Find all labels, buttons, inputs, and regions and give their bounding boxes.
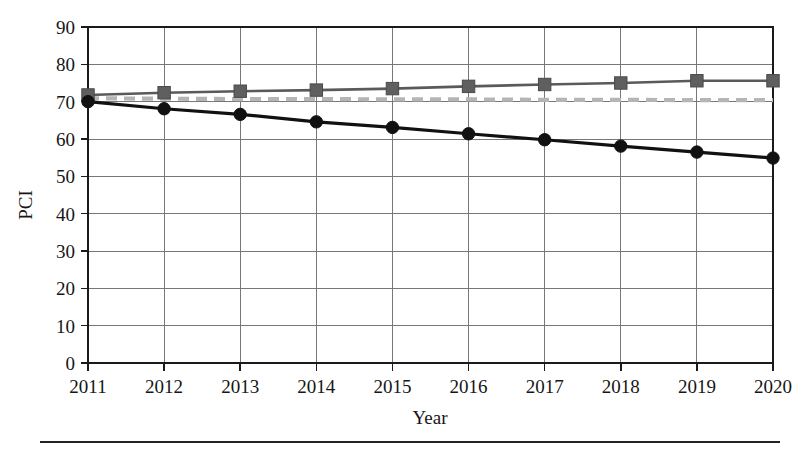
y-tick-label: 10 [56, 316, 75, 337]
x-tick-label: 2020 [754, 376, 792, 397]
data-point-marker [310, 84, 322, 96]
x-tick-label: 2018 [602, 376, 640, 397]
data-point-marker [310, 116, 322, 128]
y-tick-label: 0 [66, 353, 76, 374]
data-point-marker [386, 82, 398, 94]
x-tick-label: 2019 [678, 376, 716, 397]
data-point-marker [691, 146, 703, 158]
y-tick-label: 80 [56, 54, 75, 75]
data-point-marker [615, 77, 627, 89]
data-point-marker [462, 128, 474, 140]
y-tick-label: 90 [56, 17, 75, 38]
data-point-marker [767, 75, 779, 87]
data-point-marker [538, 78, 550, 90]
chart-figure: 0102030405060708090 20112012201320142015… [0, 0, 812, 454]
plot-area-frame [88, 27, 773, 363]
data-point-marker [691, 75, 703, 87]
x-axis-tick-labels: 2011201220132014201520162017201820192020 [69, 376, 792, 397]
x-tick-label: 2012 [145, 376, 183, 397]
series-flat-dashed-threshold-series [88, 98, 773, 100]
y-tick-label: 40 [56, 204, 75, 225]
data-series-layer [82, 75, 779, 165]
data-point-marker [158, 87, 170, 99]
x-tick-label: 2015 [373, 376, 411, 397]
series-line-declining-black-circle-series [88, 102, 773, 158]
data-point-marker [538, 134, 550, 146]
data-point-marker [82, 95, 94, 107]
y-tick-label: 70 [56, 92, 75, 113]
y-tick-label: 50 [56, 166, 75, 187]
series-line-flat-dashed-threshold-series [88, 98, 773, 100]
data-point-marker [767, 152, 779, 164]
x-tick-label: 2016 [450, 376, 488, 397]
data-point-marker [615, 140, 627, 152]
data-point-marker [158, 103, 170, 115]
horizontal-gridlines [88, 64, 773, 325]
data-point-marker [234, 108, 246, 120]
x-tick-label: 2014 [297, 376, 336, 397]
y-tick-label: 20 [56, 278, 75, 299]
data-point-marker [462, 80, 474, 92]
data-point-marker [386, 121, 398, 133]
y-tick-label: 60 [56, 129, 75, 150]
x-tick-label: 2017 [526, 376, 564, 397]
footer-divider [40, 441, 780, 443]
y-axis-title: PCI [15, 190, 36, 220]
y-axis-tick-labels: 0102030405060708090 [56, 17, 75, 374]
x-tick-label: 2013 [221, 376, 259, 397]
series-declining-black-circle-series [82, 95, 779, 164]
pci-vs-year-line-chart: 0102030405060708090 20112012201320142015… [0, 0, 812, 454]
x-tick-label: 2011 [69, 376, 106, 397]
data-point-marker [234, 85, 246, 97]
series-line-rising-gray-square-series [88, 81, 773, 95]
y-tick-label: 30 [56, 241, 75, 262]
x-axis-tickmarks [88, 363, 773, 371]
x-axis-title: Year [412, 407, 448, 428]
